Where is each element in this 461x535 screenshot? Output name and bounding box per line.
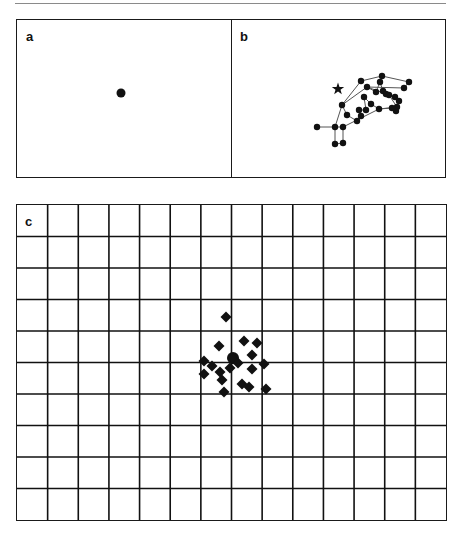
plot-layer	[0, 0, 461, 535]
diamond-marker	[252, 338, 263, 349]
fixation-diamonds	[199, 312, 272, 398]
fixation-trace	[314, 73, 412, 147]
trace-dot	[314, 124, 320, 130]
trace-dot	[358, 78, 364, 84]
diamond-marker	[219, 387, 230, 398]
diamond-marker	[239, 336, 250, 347]
trace-dot	[401, 85, 407, 91]
trace-dot	[389, 105, 395, 111]
trace-dot	[339, 102, 345, 108]
trace-dot	[356, 107, 362, 113]
star-icon	[332, 83, 344, 95]
fixation-target-dot	[117, 89, 126, 98]
trace-dot	[332, 141, 338, 147]
trace-dot	[377, 79, 383, 85]
diamond-marker	[214, 341, 225, 352]
trace-dot	[354, 118, 360, 124]
diamond-marker	[217, 375, 228, 386]
diamond-marker	[247, 350, 258, 361]
trace-dot	[364, 84, 370, 90]
trace-dot	[376, 106, 382, 112]
trace-dot	[361, 94, 367, 100]
trace-dot	[386, 92, 392, 98]
diamond-marker	[215, 367, 226, 378]
trace-dot	[332, 124, 338, 130]
diamond-marker	[247, 364, 258, 375]
trace-dot	[340, 124, 346, 130]
trace-dot	[396, 98, 402, 104]
diamond-marker	[221, 312, 232, 323]
trace-dot	[344, 112, 350, 118]
trace-dot	[358, 113, 364, 119]
trace-dot	[340, 140, 346, 146]
trace-dot	[363, 107, 369, 113]
diamond-marker	[259, 359, 270, 370]
trace-dot	[373, 89, 379, 95]
target-dot	[117, 89, 126, 98]
trace-dot	[406, 79, 412, 85]
trace-dot	[379, 73, 385, 79]
trace-dot	[368, 101, 374, 107]
